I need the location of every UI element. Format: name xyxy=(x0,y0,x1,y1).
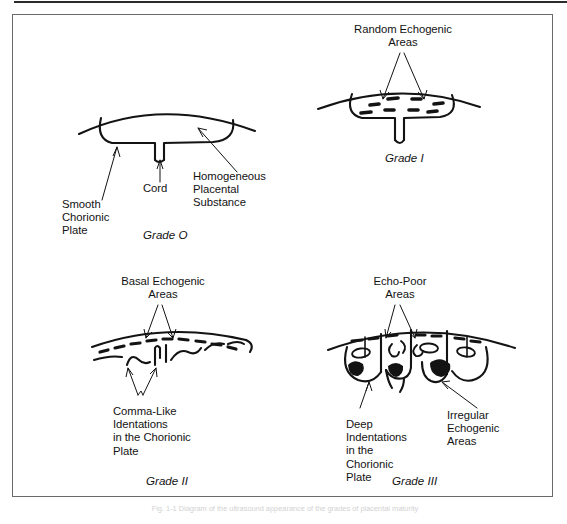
grade-label-0: Grade O xyxy=(143,228,187,241)
label-comma-like-identations: Comma-Like Identations in the Chorionic … xyxy=(113,405,191,458)
figure-root: Smooth Chorionic Plate Cord Homogeneous … xyxy=(0,0,567,524)
label-random-echogenic-areas: Random Echogenic Areas xyxy=(341,23,465,49)
label-cord: Cord xyxy=(143,182,167,195)
grade-label-2: Grade II xyxy=(146,474,188,487)
grade-label-1: Grade I xyxy=(385,151,424,164)
label-echo-poor-areas: Echo-Poor Areas xyxy=(355,275,445,301)
figure-caption: Fig. 1-1 Diagram of the ultrasound appea… xyxy=(60,504,510,513)
grade-label-3: Grade III xyxy=(392,474,437,487)
page-top-rule xyxy=(14,1,567,3)
label-irregular-echogenic-areas: Irregular Echogenic Areas xyxy=(447,409,499,449)
label-smooth-chorionic-plate: Smooth Chorionic Plate xyxy=(62,198,109,238)
label-basal-echogenic-areas: Basal Echogenic Areas xyxy=(101,275,225,301)
label-homogeneous-placental-substance: Homogeneous Placental Substance xyxy=(193,170,266,210)
